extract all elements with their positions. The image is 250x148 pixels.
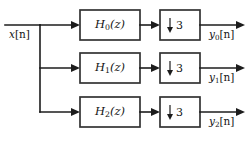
decimation-factor-2: 3 [176, 106, 183, 119]
output-1-arrow [236, 64, 245, 72]
output-0-arrow [236, 21, 245, 29]
output-signal-label-2: y2[n] [209, 116, 234, 128]
filter-label-2: H2(z) [80, 106, 140, 119]
output-2-arrow [236, 108, 245, 116]
branch-1-feed-arrow [71, 21, 80, 29]
decimator-1-arrow [151, 64, 160, 72]
decimator-0-arrow [151, 21, 160, 29]
filter-label-1: H1(z) [80, 62, 140, 75]
decimation-factor-0: 3 [176, 19, 183, 32]
decimator-2-arrow [151, 108, 160, 116]
filter-label-0: H0(z) [80, 19, 140, 32]
input-signal-label: x[n] [9, 29, 30, 40]
output-signal-label-0: y0[n] [209, 29, 234, 41]
branch-2-feed-arrow [71, 64, 80, 72]
filter-bank-diagram: x[n] H0(z) H1(z) H2(z) 3 3 3 y0[n] y1[n]… [0, 0, 250, 148]
output-signal-label-1: y1[n] [209, 72, 234, 84]
branch-3-feed-arrow [71, 108, 80, 116]
decimation-factor-1: 3 [176, 62, 183, 75]
